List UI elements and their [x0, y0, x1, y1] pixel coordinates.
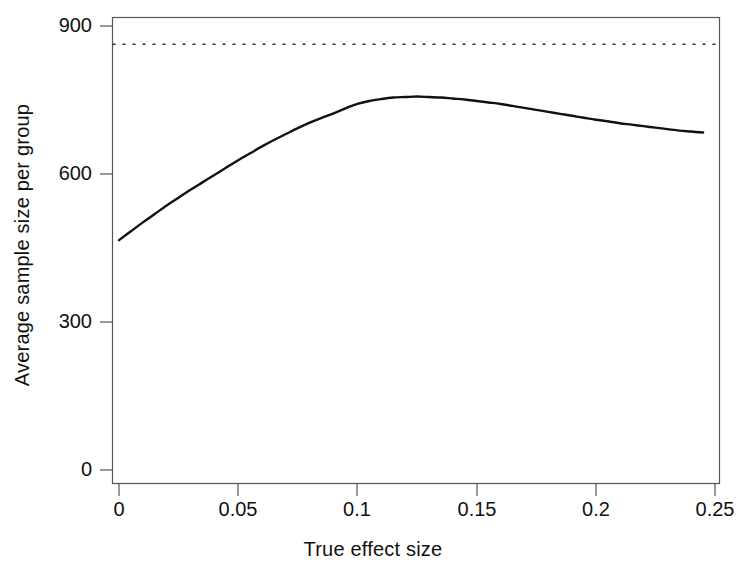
plot-area: [0, 0, 746, 579]
y-axis-ticks: [100, 26, 112, 470]
plot-frame: [113, 18, 720, 484]
data-curve: [119, 97, 703, 241]
chart-figure: Average sample size per group 900 600 30…: [0, 0, 746, 579]
x-axis-ticks: [119, 484, 715, 496]
